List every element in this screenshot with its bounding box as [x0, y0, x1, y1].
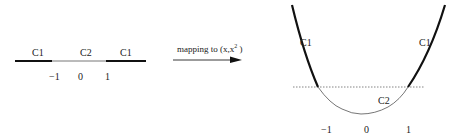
tick-zero: 0	[364, 124, 369, 135]
tick-one: 1	[105, 71, 110, 82]
tick-minus-one: −1	[321, 124, 332, 135]
label-c1-left-branch: C1	[300, 37, 312, 48]
arrow-head-icon	[230, 57, 242, 64]
label-c1-right-branch: C1	[419, 37, 431, 48]
tick-minus-one: −1	[49, 71, 60, 82]
arrow-label: mapping to (x,x2 )	[177, 43, 243, 54]
label-c1-left: C1	[32, 47, 44, 58]
number-line: C1 C2 C1 −1 0 1	[15, 47, 146, 82]
tick-zero: 0	[78, 71, 83, 82]
arc-c2	[318, 87, 408, 114]
tick-one: 1	[406, 124, 411, 135]
label-c2: C2	[80, 47, 92, 58]
mapping-diagram: C1 C2 C1 −1 0 1 mapping to (x,x2 ) C1 C1…	[0, 0, 462, 140]
label-c2-bottom: C2	[378, 95, 390, 106]
parabola: C1 C1 C2 −1 0 1	[292, 5, 445, 135]
label-c1-right: C1	[120, 47, 132, 58]
mapping-arrow: mapping to (x,x2 )	[173, 43, 243, 63]
